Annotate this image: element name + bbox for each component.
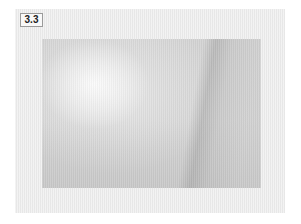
image-scan-texture [42,39,261,188]
figure-image [42,39,261,188]
figure-label: 3.3 [20,13,43,27]
